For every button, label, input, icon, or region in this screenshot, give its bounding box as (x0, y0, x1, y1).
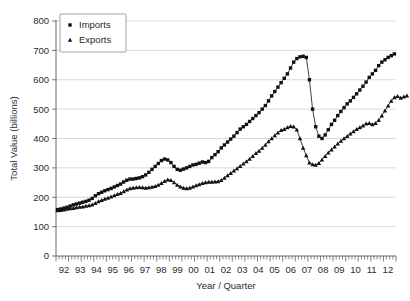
x-tick-label: 11 (367, 264, 377, 275)
data-point-marker (368, 76, 371, 79)
data-point-marker (317, 134, 320, 137)
x-tick-label: 98 (156, 264, 167, 275)
data-point-marker (135, 177, 138, 180)
data-point-marker (264, 104, 267, 107)
data-point-marker (194, 163, 197, 166)
data-point-marker (216, 150, 219, 153)
data-point-marker (380, 60, 383, 63)
y-tick-label: 800 (33, 15, 49, 26)
x-axis-ticks-group: 9293949596979899000102030405060708091011… (56, 256, 396, 275)
data-point-marker (116, 184, 119, 187)
series-imports (56, 52, 396, 211)
y-tick-label: 200 (33, 192, 49, 203)
data-point-marker (141, 175, 144, 178)
data-point-marker (305, 56, 308, 59)
y-axis-title: Total Value (billions) (8, 96, 19, 180)
x-tick-label: 97 (140, 264, 151, 275)
data-point-marker (395, 94, 399, 98)
data-point-marker (355, 92, 358, 95)
data-point-marker (283, 77, 286, 80)
data-point-marker (150, 168, 153, 171)
x-tick-label: 05 (269, 264, 280, 275)
data-point-marker (166, 177, 170, 181)
trade-line-chart: 0100200300400500600700800 92939495969798… (0, 0, 410, 301)
data-point-marker (147, 171, 150, 174)
data-point-marker (311, 107, 314, 110)
data-point-marker (109, 187, 112, 190)
data-point-marker (257, 111, 260, 114)
data-point-marker (128, 177, 131, 180)
data-point-marker (166, 158, 169, 161)
data-point-marker (207, 160, 210, 163)
y-tick-label: 0 (44, 250, 49, 261)
data-point-marker (367, 121, 371, 125)
legend-label-exports: Exports (79, 34, 111, 45)
data-point-marker (393, 52, 396, 55)
series-line (58, 96, 407, 211)
data-point-marker (361, 85, 364, 88)
data-point-marker (172, 165, 175, 168)
data-point-marker (159, 181, 163, 185)
x-tick-label: 01 (205, 264, 216, 275)
data-point-marker (204, 161, 207, 164)
data-point-marker (358, 88, 361, 91)
data-point-marker (339, 110, 342, 113)
data-point-marker (91, 197, 94, 200)
data-point-marker (223, 143, 226, 146)
data-point-marker (106, 188, 109, 191)
data-point-marker (330, 123, 333, 126)
data-point-marker (279, 81, 282, 84)
data-point-marker (238, 127, 241, 130)
x-tick-label: 96 (124, 264, 135, 275)
y-tick-label: 500 (33, 104, 49, 115)
data-point-marker (131, 177, 134, 180)
x-tick-label: 09 (334, 264, 345, 275)
x-tick-label: 95 (107, 264, 118, 275)
data-point-marker (383, 58, 386, 61)
data-point-marker (220, 146, 223, 149)
y-axis-ticks-group: 0100200300400500600700800 (33, 15, 56, 261)
data-point-marker (188, 165, 191, 168)
x-tick-label: 99 (172, 264, 183, 275)
data-point-marker (198, 161, 201, 164)
data-point-marker (270, 94, 273, 97)
data-point-marker (261, 107, 264, 110)
data-point-marker (78, 201, 81, 204)
data-point-marker (380, 113, 384, 117)
data-point-marker (349, 99, 352, 102)
data-point-marker (94, 194, 97, 197)
data-point-marker (292, 60, 295, 63)
data-point-marker (100, 191, 103, 194)
data-point-marker (157, 162, 160, 165)
series-line (58, 54, 395, 210)
y-tick-label: 300 (33, 162, 49, 173)
data-point-marker (169, 161, 172, 164)
x-axis-title: Year / Quarter (196, 280, 255, 291)
data-point-marker (119, 182, 122, 185)
data-point-marker (390, 54, 393, 57)
data-point-marker (295, 57, 298, 60)
data-point-marker (68, 23, 71, 26)
data-point-marker (75, 202, 78, 205)
data-point-marker (229, 137, 232, 140)
data-point-marker (191, 163, 194, 166)
data-point-marker (84, 200, 87, 203)
data-point-marker (352, 96, 355, 99)
legend-label-imports: Imports (79, 19, 111, 30)
data-point-marker (163, 157, 166, 160)
y-tick-label: 600 (33, 74, 49, 85)
x-tick-label: 04 (253, 264, 264, 275)
data-point-marker (364, 80, 367, 83)
x-tick-label: 06 (285, 264, 296, 275)
data-point-marker (304, 153, 308, 157)
data-point-marker (301, 55, 304, 58)
x-tick-label: 93 (75, 264, 86, 275)
data-point-marker (182, 167, 185, 170)
data-point-marker (308, 78, 311, 81)
data-point-marker (235, 131, 238, 134)
series-exports (55, 93, 409, 212)
data-point-marker (267, 99, 270, 102)
data-point-marker (160, 159, 163, 162)
data-point-marker (288, 124, 292, 128)
data-point-marker (113, 185, 116, 188)
